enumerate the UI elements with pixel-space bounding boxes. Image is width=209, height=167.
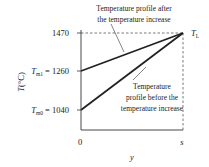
x-tick-s: s: [180, 137, 184, 147]
tick-label-1260: Tm1 = 1260: [31, 66, 69, 77]
tick-label-1470: 1470: [52, 28, 69, 38]
temperature-profile-diagram: 1470 Tm1 = 1260 Tm0 = 1040 T(°C) 0 s y T…: [0, 0, 209, 167]
y-axis-label: T(°C): [16, 72, 26, 92]
liquidus-label: TL: [191, 28, 200, 39]
leader-after: [111, 24, 124, 52]
x-axis-label: y: [129, 152, 134, 162]
annotation-after-line1: Temperature profile after: [96, 4, 172, 13]
annotation-after-line2: the temperature increase: [97, 15, 171, 24]
annotation-before-line3: temperature increase: [121, 104, 184, 113]
profile-after-line: [81, 33, 183, 71]
x-tick-0: 0: [78, 137, 82, 147]
annotation-before-line1: Temperature: [133, 82, 171, 91]
annotation-before-line2: profile before the: [126, 93, 179, 102]
tick-label-1040: Tm0 = 1040: [31, 105, 69, 116]
